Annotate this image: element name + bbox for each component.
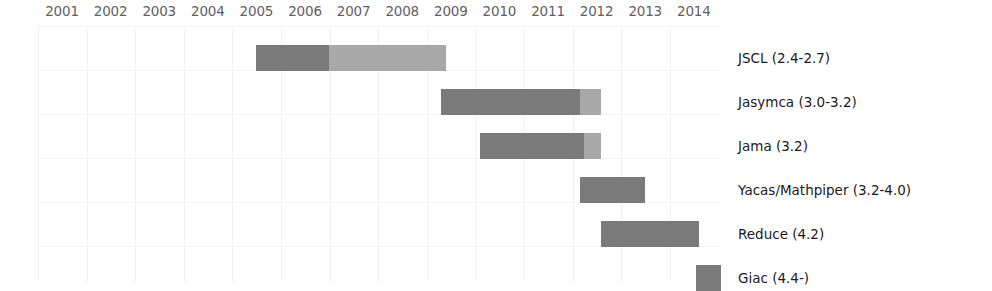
gantt-bar[interactable] xyxy=(256,45,446,71)
gantt-bar[interactable] xyxy=(601,221,698,247)
gantt-row-label: Reduce (4.2) xyxy=(738,226,824,242)
gantt-row-label: Yacas/Mathpiper (3.2-4.0) xyxy=(738,182,911,198)
gantt-bar-segment xyxy=(696,265,720,291)
year-tick-2002: 2002 xyxy=(94,3,128,19)
year-tick-2012: 2012 xyxy=(580,3,614,19)
year-tick-2013: 2013 xyxy=(628,3,662,19)
gantt-row: Giac (4.4-) xyxy=(0,265,992,291)
gantt-row: Jasymca (3.0-3.2) xyxy=(0,89,992,115)
gantt-bar[interactable] xyxy=(441,89,601,115)
year-tick-2010: 2010 xyxy=(483,3,517,19)
gantt-bar-segment xyxy=(580,177,646,203)
year-tick-2014: 2014 xyxy=(677,3,711,19)
year-tick-2003: 2003 xyxy=(142,3,176,19)
year-tick-2005: 2005 xyxy=(240,3,274,19)
year-tick-2006: 2006 xyxy=(288,3,322,19)
gantt-bar-segment xyxy=(580,89,602,115)
year-tick-2011: 2011 xyxy=(531,3,565,19)
gantt-bar[interactable] xyxy=(696,265,720,291)
gantt-bar[interactable] xyxy=(580,177,646,203)
gantt-row: JSCL (2.4-2.7) xyxy=(0,45,992,71)
gantt-bar-segment xyxy=(584,133,601,159)
year-tick-2001: 2001 xyxy=(45,3,79,19)
year-tick-2008: 2008 xyxy=(385,3,419,19)
gantt-row-label: Jasymca (3.0-3.2) xyxy=(738,94,857,110)
gantt-row: Yacas/Mathpiper (3.2-4.0) xyxy=(0,177,992,203)
year-tick-2007: 2007 xyxy=(337,3,371,19)
gantt-bar-segment xyxy=(601,221,698,247)
gridline-horizontal xyxy=(38,26,722,27)
gantt-bar[interactable] xyxy=(480,133,602,159)
gantt-bar-segment xyxy=(256,45,329,71)
gantt-bar-segment xyxy=(480,133,584,159)
gantt-row-label: Jama (3.2) xyxy=(738,138,808,154)
gantt-row-label: Giac (4.4-) xyxy=(738,270,809,286)
year-axis: 2001200220032004200520062007200820092010… xyxy=(0,0,992,26)
year-tick-2004: 2004 xyxy=(191,3,225,19)
gantt-row: Reduce (4.2) xyxy=(0,221,992,247)
gantt-bar-segment xyxy=(329,45,446,71)
year-tick-2009: 2009 xyxy=(434,3,468,19)
gantt-row: Jama (3.2) xyxy=(0,133,992,159)
gantt-bar-segment xyxy=(441,89,580,115)
gantt-row-label: JSCL (2.4-2.7) xyxy=(738,50,830,66)
